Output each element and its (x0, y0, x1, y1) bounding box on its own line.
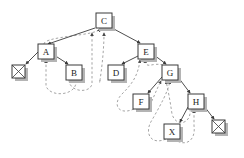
node-g[interactable]: G (162, 65, 181, 83)
node-b-label: B (71, 68, 77, 78)
node-f-label: F (138, 97, 143, 107)
node-c[interactable]: C (96, 13, 115, 31)
node-d-label: D (113, 68, 120, 78)
child-edge-c-e (112, 28, 140, 43)
child-edge-c-a (48, 28, 95, 44)
node-b[interactable]: B (66, 65, 85, 83)
parent-edge-h-g (166, 81, 190, 123)
child-edge-g-f (148, 77, 162, 93)
node-h-label: H (193, 97, 200, 107)
node-x[interactable]: X (164, 124, 183, 142)
node-g-label: G (167, 68, 174, 78)
node-f[interactable]: F (133, 94, 152, 112)
node-a[interactable]: A (38, 44, 57, 62)
node-nil-left[interactable] (12, 65, 28, 81)
child-edge-e-d (122, 56, 138, 64)
node-e[interactable]: E (138, 44, 157, 62)
node-x-label: X (169, 127, 176, 137)
node-e-label: E (143, 47, 149, 57)
node-h[interactable]: H (188, 94, 207, 112)
parent-edge-d-e (100, 33, 104, 83)
node-d[interactable]: D (108, 65, 127, 83)
node-a-label: A (43, 47, 50, 57)
child-edge-h-x (180, 107, 188, 122)
child-edge-a-nil1 (26, 52, 38, 64)
tree-graph: C A E (0, 0, 244, 158)
diagram-canvas: C A E (0, 0, 244, 158)
node-c-label: C (101, 16, 107, 26)
node-nil-right[interactable] (212, 120, 228, 136)
